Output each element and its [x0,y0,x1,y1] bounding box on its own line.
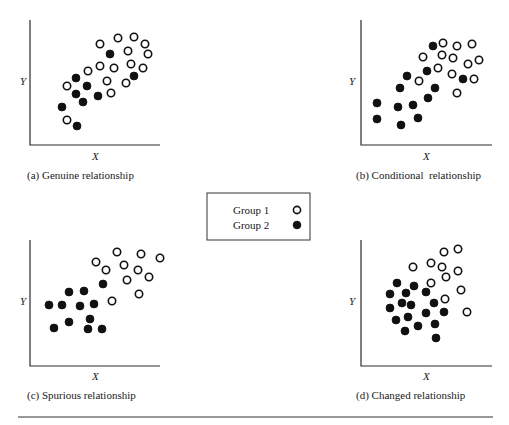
data-point-group-2 [404,313,412,321]
data-point-group-1 [123,276,130,283]
data-point-group-2 [80,287,88,295]
data-point-group-1 [438,51,445,58]
scatter-panel-b: YX(b) Conditional relationship [349,20,492,182]
y-axis-label: Y [20,75,28,87]
panel-caption: (d) Changed relationship [356,389,466,402]
data-point-group-2 [414,114,422,122]
data-point-group-1 [468,40,475,47]
panel-caption: (c) Spurious relationship [27,389,136,402]
data-point-group-1 [103,77,110,84]
data-point-group-1 [156,254,163,261]
data-point-group-1 [141,40,148,47]
data-point-group-1 [453,42,460,49]
data-point-group-2 [76,302,84,310]
data-point-group-2 [440,308,448,316]
data-point-group-1 [409,263,416,270]
data-point-group-2 [106,50,114,58]
data-point-group-1 [84,67,91,74]
panel-caption: (a) Genuine relationship [27,169,134,182]
data-point-group-1 [463,308,470,315]
data-point-group-2 [431,320,439,328]
data-point-group-2 [58,103,66,111]
x-axis-label: X [91,370,100,382]
data-point-group-1 [438,263,445,270]
scatter-panel-d: YX(d) Changed relationship [349,240,492,402]
data-point-group-2 [410,282,418,290]
data-point-group-1 [137,250,144,257]
data-point-group-1 [135,290,142,297]
axes-frame [361,240,492,366]
legend-box [207,193,310,240]
data-point-group-2 [386,304,394,312]
data-point-group-1 [440,248,447,255]
data-point-group-2 [90,300,98,308]
data-point-group-2 [45,301,53,309]
data-point-group-2 [393,279,401,287]
scatter-panel-a: YX(a) Genuine relationship [20,20,160,182]
y-axis-label: Y [20,295,28,307]
data-point-group-1 [415,77,422,84]
data-point-group-2 [396,84,404,92]
data-point-group-1 [442,273,449,280]
axes-frame [30,20,160,145]
data-point-group-1 [134,266,141,273]
data-point-group-2 [430,299,438,307]
data-point-group-2 [73,122,81,130]
data-point-group-1 [130,33,137,40]
data-point-group-1 [139,64,146,71]
data-point-group-1 [419,53,426,60]
y-axis-label: Y [349,75,357,87]
data-point-group-2 [98,325,106,333]
data-point-group-1 [92,258,99,265]
data-point-group-1 [145,273,152,280]
x-axis-label: X [422,150,431,162]
data-point-group-2 [422,309,430,317]
data-point-group-1 [108,297,115,304]
scatter-panel-c: YX(c) Spurious relationship [20,240,164,402]
y-axis-label: Y [349,295,357,307]
data-point-group-1 [63,82,70,89]
data-point-group-1 [427,259,434,266]
data-point-group-1 [457,286,464,293]
data-point-group-2 [424,94,432,102]
data-point-group-2 [392,316,400,324]
data-point-group-1 [448,70,455,77]
data-point-group-1 [96,62,103,69]
data-point-group-1 [114,34,121,41]
data-point-group-2 [422,288,430,296]
data-point-group-2 [409,101,417,109]
data-point-group-1 [144,50,151,57]
data-point-group-1 [113,248,120,255]
data-point-group-1 [454,267,461,274]
data-point-group-1 [454,245,461,252]
legend-label-group-2: Group 2 [233,219,269,231]
legend-label-group-1: Group 1 [233,204,269,216]
data-point-group-2 [72,90,80,98]
x-axis-label: X [422,370,431,382]
data-point-group-2 [397,121,405,129]
data-point-group-1 [475,56,482,63]
data-point-group-2 [99,280,107,288]
data-point-group-2 [94,92,102,100]
data-point-group-2 [459,75,467,83]
figure-canvas: YX(a) Genuine relationshipYX(b) Conditio… [0,0,509,425]
data-point-group-1 [427,279,434,286]
data-point-group-1 [453,89,460,96]
data-point-group-1 [124,47,131,54]
data-point-group-1 [122,79,129,86]
data-point-group-1 [464,60,471,67]
data-point-group-2 [130,72,138,80]
data-point-group-1 [470,75,477,82]
data-point-group-2 [432,334,440,342]
data-point-group-2 [414,322,422,330]
legend: Group 1 Group 2 [207,193,310,240]
data-point-group-2 [84,325,92,333]
data-point-group-1 [102,266,109,273]
data-point-group-1 [107,89,114,96]
data-point-group-2 [398,299,406,307]
data-point-group-1 [441,295,448,302]
data-point-group-2 [72,74,80,82]
data-point-group-1 [127,60,134,67]
data-point-group-2 [50,324,58,332]
data-point-group-2 [86,315,94,323]
